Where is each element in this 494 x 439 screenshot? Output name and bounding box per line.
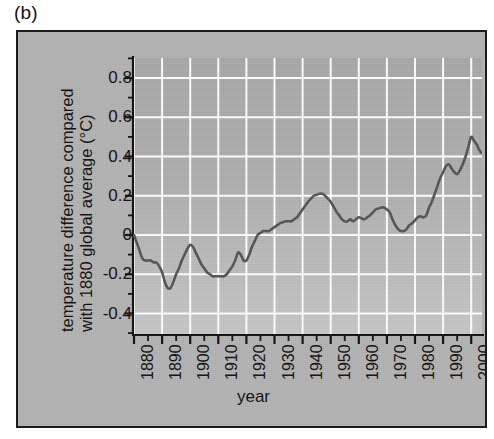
x-axis-ticks <box>134 335 471 344</box>
plot-area-container: temperature difference compared with 188… <box>18 32 487 428</box>
y-axis-ticks <box>125 58 133 333</box>
line-chart-plot <box>18 32 487 428</box>
figure-frame: temperature difference compared with 188… <box>16 30 487 428</box>
panel-label: (b) <box>14 2 38 24</box>
